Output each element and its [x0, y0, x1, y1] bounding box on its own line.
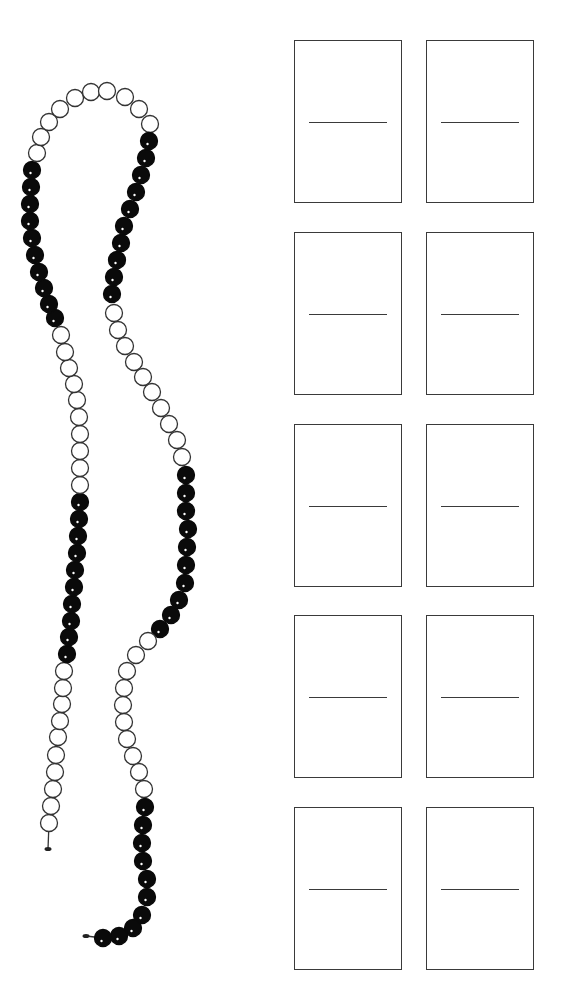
answer-box-top-field[interactable] — [427, 41, 533, 119]
bead-dark — [27, 247, 44, 264]
bead-highlight — [109, 296, 111, 298]
bead-light — [140, 633, 157, 650]
answer-box-bottom-field[interactable] — [427, 891, 533, 969]
bead-dark — [178, 467, 195, 484]
bead-dark — [106, 269, 123, 286]
bead-highlight — [76, 521, 78, 523]
bead-dark — [59, 646, 76, 663]
answer-divider-line — [441, 506, 519, 507]
bead-highlight — [121, 228, 123, 230]
bead-highlight — [127, 211, 129, 213]
answer-box-4[interactable] — [426, 232, 534, 395]
answer-box-bottom-field[interactable] — [295, 891, 401, 969]
answer-box-8[interactable] — [426, 615, 534, 778]
bead-highlight — [142, 809, 144, 811]
bead-highlight — [69, 606, 71, 608]
bead-highlight — [183, 495, 185, 497]
bead-light — [71, 409, 88, 426]
bead-highlight — [41, 290, 43, 292]
answer-divider-line — [309, 314, 387, 315]
answer-divider-line — [441, 889, 519, 890]
answer-box-bottom-field[interactable] — [427, 124, 533, 202]
bead-highlight — [146, 143, 148, 145]
bead-light — [45, 781, 62, 798]
bead-dark — [36, 280, 53, 297]
answer-box-bottom-field[interactable] — [295, 124, 401, 202]
bead-dark — [109, 252, 126, 269]
bead-dark — [63, 613, 80, 630]
answer-box-top-field[interactable] — [427, 808, 533, 886]
bead-highlight — [52, 320, 54, 322]
bead-highlight — [130, 930, 132, 932]
bead-highlight — [28, 189, 30, 191]
answer-box-top-field[interactable] — [295, 41, 401, 119]
bead-highlight — [72, 572, 74, 574]
bead-highlight — [64, 656, 66, 658]
bead-light — [67, 90, 84, 107]
answer-box-6[interactable] — [426, 424, 534, 587]
answer-box-bottom-field[interactable] — [295, 316, 401, 394]
bead-light — [29, 145, 46, 162]
answer-box-bottom-field[interactable] — [295, 699, 401, 777]
bead-dark — [24, 162, 41, 179]
bead-highlight — [27, 223, 29, 225]
bead-light — [116, 680, 133, 697]
bead-light — [142, 116, 159, 133]
bead-light — [54, 696, 71, 713]
bead-highlight — [140, 827, 142, 829]
answer-box-10[interactable] — [426, 807, 534, 970]
answer-box-bottom-field[interactable] — [427, 316, 533, 394]
answer-box-top-field[interactable] — [427, 233, 533, 311]
bead-highlight — [71, 589, 73, 591]
answer-box-3[interactable] — [294, 232, 402, 395]
bead-light — [72, 477, 89, 494]
bead-light — [57, 344, 74, 361]
bead-dark — [135, 853, 152, 870]
bead-highlight — [143, 160, 145, 162]
answer-box-top-field[interactable] — [427, 425, 533, 503]
bead-highlight — [74, 555, 76, 557]
bead-light — [131, 101, 148, 118]
bead-light — [48, 747, 65, 764]
bead-dark — [104, 286, 121, 303]
bead-dark — [133, 167, 150, 184]
answer-box-bottom-field[interactable] — [295, 508, 401, 586]
answer-box-bottom-field[interactable] — [427, 508, 533, 586]
chain-string — [48, 823, 103, 938]
bead-light — [53, 327, 70, 344]
answer-box-top-field[interactable] — [295, 808, 401, 886]
answer-box-bottom-field[interactable] — [427, 699, 533, 777]
bead-light — [135, 369, 152, 386]
bead-dark — [135, 817, 152, 834]
bead-dark — [113, 235, 130, 252]
bead-light — [55, 680, 72, 697]
bead-light — [47, 764, 64, 781]
bead-light — [106, 305, 123, 322]
answer-box-top-field[interactable] — [295, 233, 401, 311]
answer-box-top-field[interactable] — [295, 616, 401, 694]
answer-divider-line — [309, 697, 387, 698]
answer-box-2[interactable] — [426, 40, 534, 203]
knot-start-icon — [45, 847, 52, 851]
bead-highlight — [185, 531, 187, 533]
bead-highlight — [111, 279, 113, 281]
bead-highlight — [184, 549, 186, 551]
answer-box-5[interactable] — [294, 424, 402, 587]
answer-box-9[interactable] — [294, 807, 402, 970]
bead-dark — [71, 511, 88, 528]
answer-box-top-field[interactable] — [427, 616, 533, 694]
bead-highlight — [183, 477, 185, 479]
bead-dark — [31, 264, 48, 281]
answer-box-7[interactable] — [294, 615, 402, 778]
bead-highlight — [118, 245, 120, 247]
bead-highlight — [29, 172, 31, 174]
answer-box-1[interactable] — [294, 40, 402, 203]
answer-box-top-field[interactable] — [295, 425, 401, 503]
bead-light — [33, 129, 50, 146]
bead-dark — [177, 575, 194, 592]
bead-highlight — [183, 567, 185, 569]
bead-dark — [66, 579, 83, 596]
bead-highlight — [139, 845, 141, 847]
bead-light — [43, 798, 60, 815]
bead-dark — [23, 179, 40, 196]
